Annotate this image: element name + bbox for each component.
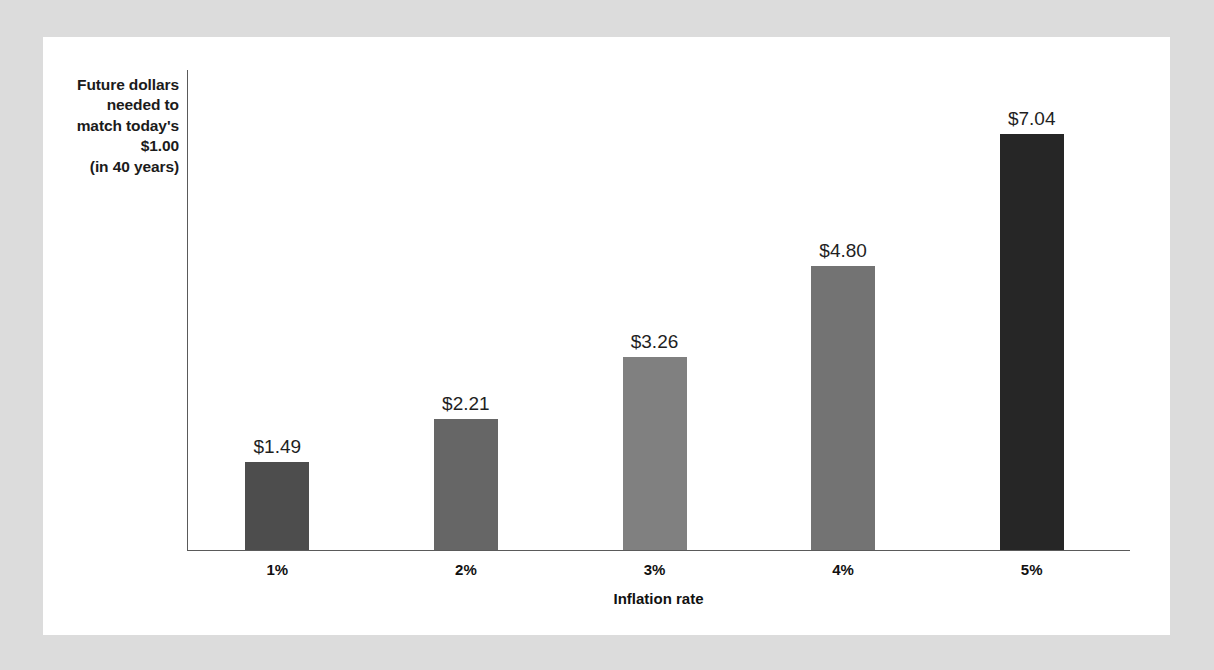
bar-group: $1.491% bbox=[245, 462, 309, 550]
y-axis-label-line-4: $1.00 bbox=[43, 136, 179, 156]
y-axis-label-line-3: match today's bbox=[43, 116, 179, 136]
x-axis-tick-label: 5% bbox=[972, 561, 1092, 578]
bar[interactable] bbox=[245, 462, 309, 550]
bar-value-label: $1.49 bbox=[217, 436, 337, 458]
chart-card: Future dollars needed to match today's $… bbox=[43, 37, 1170, 635]
plot-area: Future dollars needed to match today's $… bbox=[43, 37, 1170, 635]
bar[interactable] bbox=[623, 357, 687, 550]
x-axis-tick-label: 1% bbox=[217, 561, 337, 578]
bar-value-label: $3.26 bbox=[595, 331, 715, 353]
bar[interactable] bbox=[811, 266, 875, 550]
bar-value-label: $4.80 bbox=[783, 240, 903, 262]
bar[interactable] bbox=[434, 419, 498, 550]
bar-value-label: $2.21 bbox=[406, 393, 526, 415]
y-axis-label: Future dollars needed to match today's $… bbox=[43, 75, 179, 177]
x-axis-label: Inflation rate bbox=[187, 590, 1130, 607]
bar-group: $4.804% bbox=[811, 266, 875, 550]
x-axis-tick-label: 3% bbox=[595, 561, 715, 578]
y-axis-label-line-5: (in 40 years) bbox=[43, 157, 179, 177]
bar[interactable] bbox=[1000, 134, 1064, 550]
bar-value-label: $7.04 bbox=[972, 108, 1092, 130]
y-axis-line bbox=[187, 70, 188, 550]
x-axis-tick-label: 4% bbox=[783, 561, 903, 578]
y-axis-label-line-2: needed to bbox=[43, 95, 179, 115]
bar-group: $2.212% bbox=[434, 419, 498, 550]
x-axis-tick-label: 2% bbox=[406, 561, 526, 578]
x-axis-line bbox=[187, 550, 1130, 551]
y-axis-label-line-1: Future dollars bbox=[43, 75, 179, 95]
bar-group: $7.045% bbox=[1000, 134, 1064, 550]
bar-group: $3.263% bbox=[623, 357, 687, 550]
